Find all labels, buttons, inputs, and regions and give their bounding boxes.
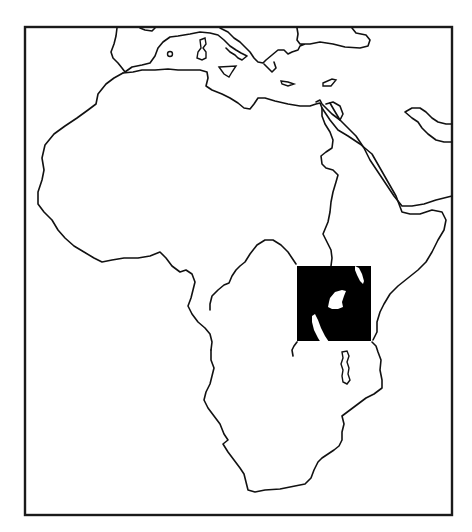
- europe-coastline: [111, 28, 370, 72]
- southern-africa-coastline: [204, 342, 382, 492]
- crete: [281, 81, 294, 86]
- highlight-region: [297, 266, 371, 350]
- balearic-islands: [168, 52, 173, 57]
- sicily: [219, 66, 236, 77]
- arabian-peninsula-coastline: [330, 103, 452, 206]
- west-africa-coastline: [38, 73, 212, 350]
- corsica-sardinia: [197, 38, 206, 60]
- lake-malawi: [341, 351, 350, 384]
- map-frame: [25, 27, 452, 515]
- greece-peninsula: [264, 62, 276, 72]
- cyprus: [323, 79, 336, 86]
- africa-map: [0, 0, 472, 532]
